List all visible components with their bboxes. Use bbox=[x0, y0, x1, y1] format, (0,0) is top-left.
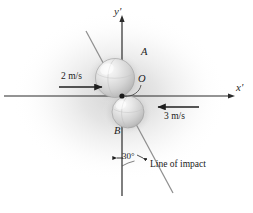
x-axis-label: x' bbox=[236, 82, 243, 93]
line-of-impact-label: Line of impact bbox=[150, 160, 206, 170]
impact-diagram-figure: y' x' A B O 2 m/s 3 m/s 30° Line of impa… bbox=[0, 0, 253, 213]
velocity-label-a: 2 m/s bbox=[61, 72, 82, 82]
sphere-b-label: B bbox=[114, 126, 120, 137]
origin-point bbox=[119, 93, 124, 98]
origin-label: O bbox=[138, 74, 146, 85]
sphere-a-label: A bbox=[141, 47, 147, 58]
x-axis-arrowhead bbox=[228, 93, 235, 98]
diagram-canvas bbox=[0, 0, 253, 213]
velocity-label-b: 3 m/s bbox=[164, 112, 185, 122]
sphere-b bbox=[112, 96, 144, 128]
angle-label-30: 30° bbox=[122, 152, 135, 161]
y-axis-label: y' bbox=[114, 6, 121, 17]
